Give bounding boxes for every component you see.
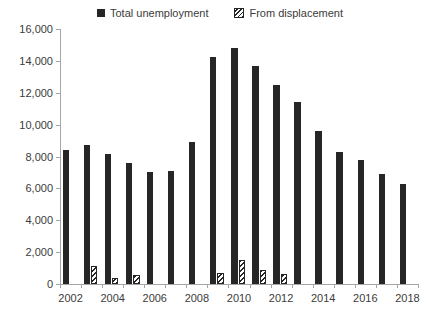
bar-chart: Total unemployment From displacement 02,…	[0, 0, 440, 320]
y-tick-label: 2,000	[25, 247, 53, 258]
bar-group	[313, 29, 334, 284]
bar-group	[81, 29, 102, 284]
plot-area: 02,0004,0006,0008,00010,00012,00014,0001…	[60, 29, 418, 284]
x-tick-label: 2014	[311, 292, 335, 304]
bar-total-unemployment	[63, 150, 69, 284]
bar-group	[123, 29, 144, 284]
bar-group	[165, 29, 186, 284]
bar-total-unemployment	[210, 57, 216, 284]
bar-total-unemployment	[126, 163, 132, 284]
y-tick-label: 6,000	[25, 183, 53, 194]
x-tick-mark	[355, 284, 356, 288]
x-tick-label: 2010	[227, 292, 251, 304]
x-tick-label: 2008	[185, 292, 209, 304]
y-tick-mark	[56, 29, 60, 30]
x-tick-mark	[334, 284, 335, 288]
y-tick-mark	[56, 93, 60, 94]
y-tick-label: 16,000	[19, 24, 53, 35]
bar-group	[186, 29, 207, 284]
bar-total-unemployment	[336, 152, 342, 284]
bar-group	[102, 29, 123, 284]
x-tick-label: 2006	[143, 292, 167, 304]
x-tick-mark	[292, 284, 293, 288]
bar-total-unemployment	[315, 131, 321, 284]
bar-from-displacement	[239, 260, 245, 284]
x-tick-mark	[81, 284, 82, 288]
x-tick-mark	[418, 284, 419, 288]
x-tick-label: 2004	[100, 292, 124, 304]
bar-group	[292, 29, 313, 284]
y-tick-label: 4,000	[25, 215, 53, 226]
x-tick-mark	[165, 284, 166, 288]
x-tick-mark	[376, 284, 377, 288]
x-tick-mark	[186, 284, 187, 288]
bar-total-unemployment	[231, 48, 237, 284]
x-tick-label: 2012	[269, 292, 293, 304]
bar-group	[355, 29, 376, 284]
bar-total-unemployment	[294, 102, 300, 284]
y-tick-mark	[56, 188, 60, 189]
y-tick-label: 14,000	[19, 55, 53, 66]
bars-layer	[60, 29, 418, 284]
bar-total-unemployment	[189, 142, 195, 284]
bar-group	[334, 29, 355, 284]
y-tick-label: 8,000	[25, 151, 53, 162]
bar-from-displacement	[217, 273, 223, 284]
legend-item-total-unemployment: Total unemployment	[97, 8, 208, 19]
x-tick-mark	[313, 284, 314, 288]
x-tick-mark	[397, 284, 398, 288]
x-tick-mark	[228, 284, 229, 288]
bar-total-unemployment	[168, 171, 174, 284]
x-tick-mark	[250, 284, 251, 288]
y-tick-label: 0	[47, 279, 53, 290]
bar-from-displacement	[112, 278, 118, 284]
bar-from-displacement	[260, 270, 266, 284]
y-tick-mark	[56, 125, 60, 126]
bar-total-unemployment	[400, 184, 406, 284]
legend-label-from-displacement: From displacement	[249, 8, 343, 19]
chart-legend: Total unemployment From displacement	[0, 4, 440, 22]
y-tick-mark	[56, 252, 60, 253]
bar-group	[228, 29, 249, 284]
bar-group	[207, 29, 228, 284]
x-tick-label: 2018	[395, 292, 419, 304]
y-tick-label: 10,000	[19, 119, 53, 130]
legend-label-total-unemployment: Total unemployment	[110, 8, 208, 19]
x-tick-mark	[271, 284, 272, 288]
bar-total-unemployment	[358, 160, 364, 284]
hatched-square-icon	[234, 8, 244, 18]
bar-group	[144, 29, 165, 284]
x-tick-label: 2002	[58, 292, 82, 304]
y-tick-label: 12,000	[19, 87, 53, 98]
bar-total-unemployment	[147, 172, 153, 284]
x-tick-mark	[207, 284, 208, 288]
bar-total-unemployment	[273, 85, 279, 284]
x-axis-line	[60, 284, 418, 285]
x-tick-mark	[123, 284, 124, 288]
x-tick-mark	[102, 284, 103, 288]
y-tick-mark	[56, 220, 60, 221]
bar-group	[397, 29, 418, 284]
solid-square-icon	[97, 9, 105, 17]
bar-group	[376, 29, 397, 284]
bar-from-displacement	[281, 274, 287, 284]
y-tick-mark	[56, 61, 60, 62]
bar-group	[60, 29, 81, 284]
x-tick-mark	[60, 284, 61, 288]
legend-item-from-displacement: From displacement	[234, 8, 343, 19]
x-tick-mark	[144, 284, 145, 288]
x-tick-label: 2016	[353, 292, 377, 304]
y-tick-mark	[56, 157, 60, 158]
bar-group	[250, 29, 271, 284]
bar-total-unemployment	[84, 145, 90, 284]
bar-from-displacement	[133, 275, 139, 284]
bar-group	[271, 29, 292, 284]
bar-total-unemployment	[252, 66, 258, 284]
bar-from-displacement	[91, 266, 97, 284]
bar-total-unemployment	[379, 174, 385, 284]
bar-total-unemployment	[105, 154, 111, 284]
